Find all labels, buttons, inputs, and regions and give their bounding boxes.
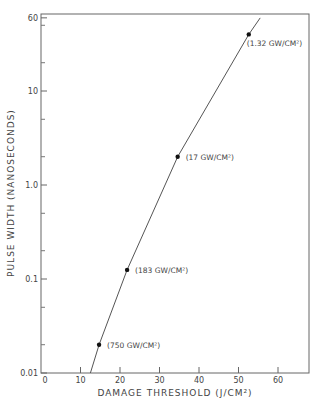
x-axis-title: DAMAGE THRESHOLD (J/CM²) [97, 388, 252, 398]
y-tick-label: 10 [28, 87, 38, 96]
x-tick-label: 10 [75, 376, 85, 385]
y-tick-label: 1.0 [25, 181, 38, 190]
x-tick-label: 60 [273, 376, 283, 385]
plot-frame [41, 14, 309, 373]
x-tick-label: 20 [115, 376, 125, 385]
fit-curve [90, 18, 260, 373]
damage-threshold-chart: 0.010.11.01060 0102030405060 (750 GW/CM²… [0, 0, 322, 404]
x-tick-label: 0 [42, 376, 47, 385]
x-tick-label: 40 [194, 376, 204, 385]
y-axis-title: PULSE WIDTH (NANOSECONDS) [6, 109, 16, 277]
data-point [247, 32, 251, 36]
point-annotation: (183 GW/CM²) [135, 266, 188, 275]
x-axis-ticks: 0102030405060 [42, 367, 283, 385]
x-tick-label: 30 [154, 376, 164, 385]
data-point [125, 268, 129, 272]
y-tick-label: 60 [28, 14, 38, 23]
data-point [97, 343, 101, 347]
point-annotation: (750 GW/CM²) [107, 341, 160, 350]
y-tick-label: 0.01 [20, 369, 38, 378]
data-points: (750 GW/CM²)(183 GW/CM²)(17 GW/CM²)(1.32… [97, 32, 302, 349]
data-point [175, 155, 179, 159]
point-annotation: (17 GW/CM²) [186, 153, 234, 162]
x-tick-label: 50 [233, 376, 243, 385]
y-tick-label: 0.1 [25, 275, 38, 284]
point-annotation: (1.32 GW/CM²) [247, 39, 302, 48]
y-axis-ticks: 0.010.11.01060 [20, 14, 47, 378]
